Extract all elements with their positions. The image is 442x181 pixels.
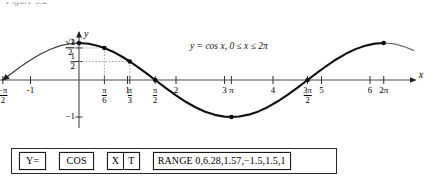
y-tick-label: 12 bbox=[71, 52, 76, 71]
key-x-t[interactable]: X T bbox=[107, 152, 140, 170]
fraction-numerator: −π bbox=[0, 86, 7, 95]
cosine-graph-plot: y x y = cos x, 0 ≤ x ≤ 2π −π2-1π61π3π223… bbox=[0, 8, 442, 136]
calculator-key-bar: Y= COS X T RANGE 0,6.28,1.57,−1.5,1.5,1 bbox=[11, 148, 337, 174]
x-tick-label: 5 bbox=[319, 86, 324, 95]
x-axis-label: x bbox=[419, 69, 423, 80]
figure-container: Figure 5.2 y x y = cos x, 0 ≤ x ≤ 2π −π2… bbox=[0, 0, 442, 181]
fraction-numerator: π bbox=[102, 86, 106, 95]
x-tick-label: 4 bbox=[271, 86, 276, 95]
fraction-denominator: 3 bbox=[128, 95, 132, 105]
x-tick-label: 2 bbox=[174, 86, 179, 95]
fraction-numerator: 3π bbox=[303, 86, 312, 95]
key-x-t-left: X bbox=[108, 153, 124, 169]
x-tick-label: 3 bbox=[222, 86, 227, 95]
x-tick-label: −π2 bbox=[0, 86, 7, 104]
fraction-numerator: √3 bbox=[66, 38, 75, 47]
equation-annotation: y = cos x, 0 ≤ x ≤ 2π bbox=[190, 41, 268, 51]
key-y-equals[interactable]: Y= bbox=[19, 152, 46, 170]
x-tick-label: 2π bbox=[379, 86, 388, 95]
fraction-denominator: 2 bbox=[303, 95, 312, 105]
x-tick-label: π6 bbox=[102, 86, 106, 104]
x-tick-label: π bbox=[229, 86, 234, 95]
x-tick-label: -1 bbox=[27, 86, 35, 95]
x-tick-label: π2 bbox=[153, 86, 157, 104]
key-range[interactable]: RANGE 0,6.28,1.57,−1.5,1.5,1 bbox=[153, 152, 291, 170]
key-cos[interactable]: COS bbox=[59, 152, 93, 170]
x-tick-label: 6 bbox=[368, 86, 373, 95]
fraction-denominator: 6 bbox=[102, 95, 106, 105]
fraction-denominator: 2 bbox=[71, 61, 76, 71]
y-tick-label: −1 bbox=[65, 112, 75, 121]
y-axis-label: y bbox=[84, 28, 88, 39]
fraction-numerator: 1 bbox=[71, 52, 76, 61]
fraction-denominator: 2 bbox=[0, 95, 7, 105]
fraction-numerator: π bbox=[153, 86, 157, 95]
caption-fragment: Figure 5.2 bbox=[6, 0, 48, 6]
x-tick-label: 3π2 bbox=[303, 86, 312, 104]
fraction-denominator: 2 bbox=[153, 95, 157, 105]
fraction-numerator: π bbox=[128, 86, 132, 95]
x-tick-label: π3 bbox=[128, 86, 132, 104]
key-x-t-right: T bbox=[123, 153, 138, 169]
